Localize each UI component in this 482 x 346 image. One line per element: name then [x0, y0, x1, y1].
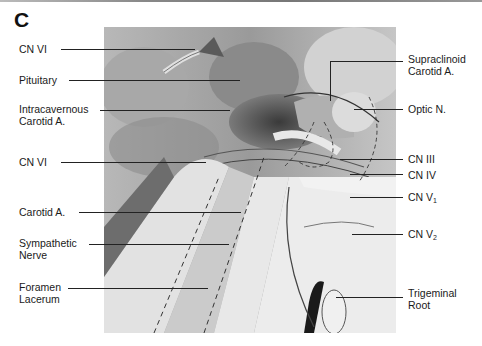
label-text: Pituitary [19, 74, 57, 86]
label-carotid-a: Carotid A. [19, 206, 65, 218]
leader-cn-vi-top [61, 49, 195, 50]
label-text: CN VI [19, 156, 47, 168]
label-text: CN VI [19, 43, 47, 55]
label-text: Carotid A. [19, 206, 65, 218]
label-cn-iii: CN III [408, 153, 435, 165]
label-text-line1: Foramen [19, 281, 61, 293]
label-text-line1: Intracavernous [19, 103, 88, 115]
label-text-line2: Root [408, 299, 457, 311]
leader-cn-iii [340, 159, 403, 160]
label-text: CN III [408, 153, 435, 165]
label-subscript: 1 [433, 197, 437, 204]
label-intracavernous-carotid: Intracavernous Carotid A. [19, 103, 88, 127]
leader-cn-v2 [352, 234, 403, 235]
panel-letter: C [14, 8, 29, 32]
label-foramen-lacerum: Foramen Lacerum [19, 281, 61, 305]
label-optic-n: Optic N. [408, 103, 446, 115]
label-cn-v1: CN V1 [408, 191, 437, 207]
label-cn-iv: CN IV [408, 169, 436, 181]
label-text: CN V [408, 191, 433, 203]
leader-supraclinoid-horizontal [330, 61, 403, 62]
label-subscript: 2 [433, 234, 437, 241]
label-pituitary: Pituitary [19, 74, 57, 86]
label-text-line2: Carotid A. [408, 65, 466, 77]
label-text: Optic N. [408, 103, 446, 115]
leader-cn-v1 [350, 197, 403, 198]
leader-sympathetic-nerve [89, 244, 229, 245]
label-cn-vi-mid: CN VI [19, 156, 47, 168]
leader-optic-n [354, 109, 403, 110]
label-text-line2: Carotid A. [19, 115, 88, 127]
leader-intracavernous-carotid [100, 110, 230, 111]
label-text-line1: Sympathetic [19, 237, 77, 249]
label-cn-v2: CN V2 [408, 228, 437, 244]
label-text-line2: Lacerum [19, 293, 61, 305]
leader-cn-iv [350, 174, 403, 175]
leader-supraclinoid-vertical [330, 61, 331, 101]
label-text-line2: Nerve [19, 249, 77, 261]
label-supraclinoid-carotid: Supraclinoid Carotid A. [408, 53, 466, 77]
leader-pituitary [69, 80, 240, 81]
leader-trigeminal-root [336, 297, 403, 298]
label-text: CN V [408, 228, 433, 240]
label-sympathetic-nerve: Sympathetic Nerve [19, 237, 77, 261]
label-trigeminal-root: Trigeminal Root [408, 287, 457, 311]
label-text-line1: Supraclinoid [408, 53, 466, 65]
label-cn-vi-top: CN VI [19, 43, 47, 55]
leader-carotid-a [79, 212, 241, 213]
leader-foramen-lacerum [68, 288, 208, 289]
top-rule [0, 0, 482, 2]
label-text-line1: Trigeminal [408, 287, 457, 299]
leader-cn-vi-mid [61, 162, 206, 163]
label-text: CN IV [408, 169, 436, 181]
